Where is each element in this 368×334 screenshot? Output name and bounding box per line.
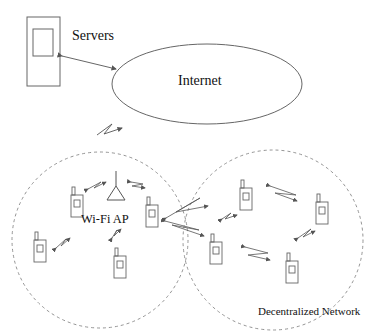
wireless-link-icon (97, 124, 122, 135)
phone-icon (146, 197, 158, 227)
decentralized-cell-boundary (183, 150, 363, 330)
diagram-graphics (0, 0, 368, 334)
server-internet-link (62, 56, 116, 69)
wireless-link-icon (56, 238, 70, 248)
decentralized-network-label: Decentralized Network (258, 305, 360, 317)
phone-icon (34, 232, 46, 262)
phone-icon (114, 248, 126, 278)
phone-icon (240, 180, 252, 210)
wifi-ap-antenna-icon (107, 171, 125, 200)
wireless-link-icon (88, 182, 106, 189)
internet-label: Internet (178, 73, 222, 89)
wifi-ap-label: Wi-Fi AP (81, 212, 129, 227)
wireless-link-icon (270, 186, 297, 201)
wireless-link-icon (112, 229, 121, 238)
servers-label: Servers (72, 28, 114, 44)
wireless-link-icon (298, 229, 315, 238)
server-icon (27, 17, 60, 86)
wireless-link-icon (131, 182, 145, 188)
network-diagram: Servers Internet Wi-Fi AP Decentralized … (0, 0, 368, 334)
wireless-link-icon (245, 247, 270, 260)
wireless-link-icon (165, 221, 204, 236)
phone-icon (210, 234, 222, 264)
phone-icon (286, 253, 298, 283)
phone-icon (316, 194, 328, 224)
wireless-link-icon (222, 213, 237, 219)
